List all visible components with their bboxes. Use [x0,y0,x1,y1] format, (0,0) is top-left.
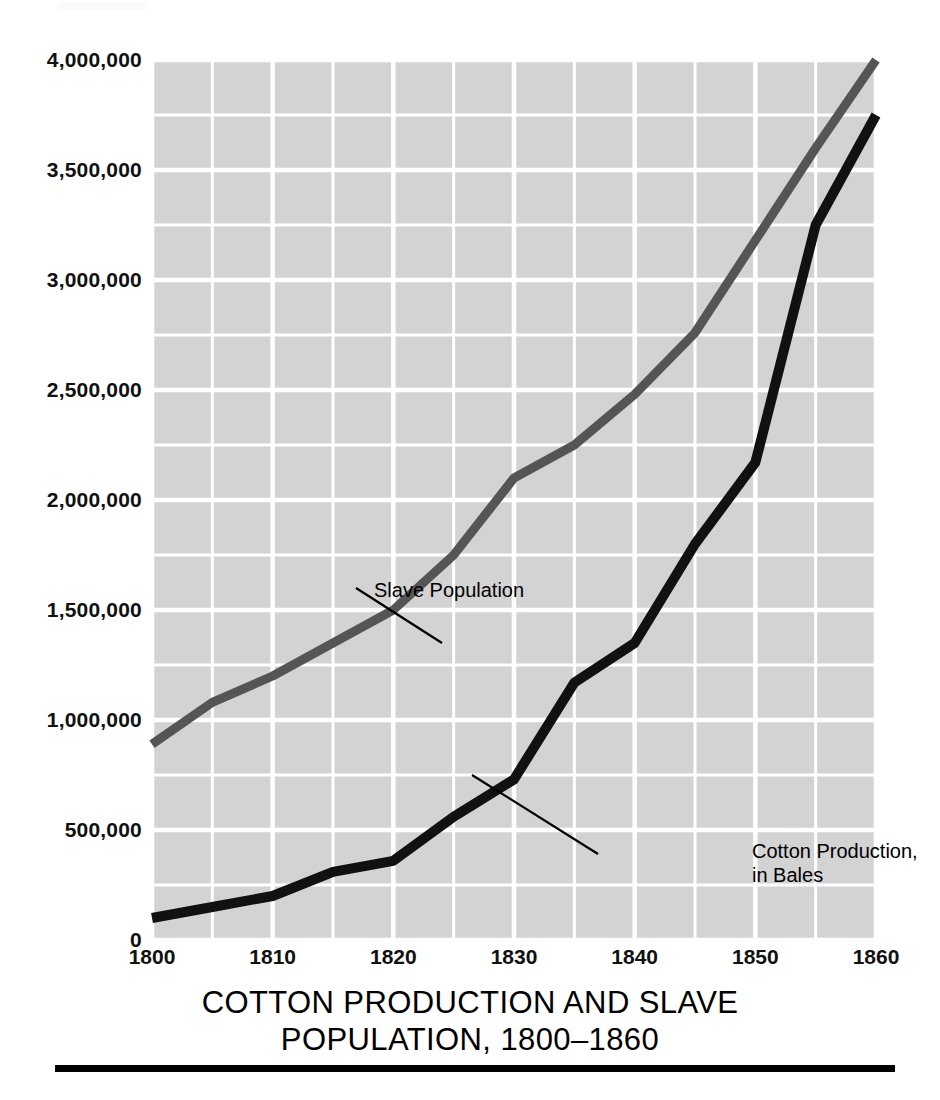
chart-figure: 4,000,0003,500,0003,000,0002,500,0002,00… [0,0,940,1100]
y-tick-label: 1,000,000 [0,709,142,730]
y-tick-label: 2,500,000 [0,379,142,400]
x-tick-label: 1850 [695,946,815,967]
x-tick-label: 1860 [816,946,936,967]
annotation-slave-population: Slave Population [374,578,524,602]
y-tick-label: 4,000,000 [0,49,142,70]
y-tick-label: 2,000,000 [0,489,142,510]
x-tick-label: 1800 [92,946,212,967]
y-tick-label: 500,000 [0,819,142,840]
annotation-cotton-line1: Cotton Production, [752,840,918,862]
annotation-cotton-production: Cotton Production,in Bales [752,839,918,888]
y-tick-label: 3,000,000 [0,269,142,290]
x-tick-label: 1810 [213,946,333,967]
chart-title-line-2: POPULATION, 1800–1860 [0,1022,940,1059]
cotton-leader-line [472,775,598,854]
y-tick-label: 3,500,000 [0,159,142,180]
x-axis-tick-labels: 1800181018201830184018501860 [152,946,876,976]
annotation-cotton-line2: in Bales [752,864,823,886]
page-scan-artifact [58,2,148,10]
x-tick-label: 1830 [454,946,574,967]
bottom-rule-divider [55,1065,895,1072]
y-axis-tick-labels: 4,000,0003,500,0003,000,0002,500,0002,00… [0,60,142,940]
x-tick-label: 1820 [333,946,453,967]
y-tick-label: 1,500,000 [0,599,142,620]
gridlines-major [152,60,876,940]
plot-area: Slave Population Cotton Production,in Ba… [152,60,876,940]
plot-canvas [152,60,876,940]
chart-title: COTTON PRODUCTION AND SLAVE POPULATION, … [0,985,940,1058]
chart-title-line-1: COTTON PRODUCTION AND SLAVE [0,985,940,1022]
x-tick-label: 1840 [575,946,695,967]
